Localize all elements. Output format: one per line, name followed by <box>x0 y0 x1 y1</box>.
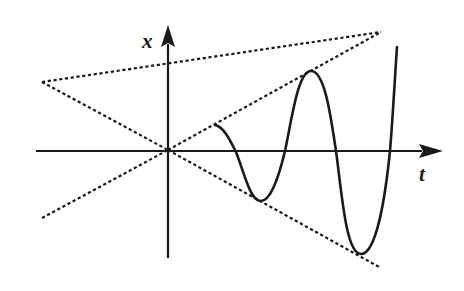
t-axis-label: t <box>419 164 425 185</box>
envelope-lower-line-left <box>42 150 168 218</box>
oscillation-diagram <box>0 0 464 291</box>
envelope-lower-line-right <box>168 150 381 268</box>
envelope-upper-line <box>42 32 381 82</box>
x-axis-label: x <box>142 31 153 52</box>
envelope-upper-line-left <box>42 82 168 150</box>
t-axis-arrow-icon <box>419 144 443 158</box>
envelope-upper-line-right <box>168 32 381 150</box>
x-axis-arrow-icon <box>161 25 175 47</box>
